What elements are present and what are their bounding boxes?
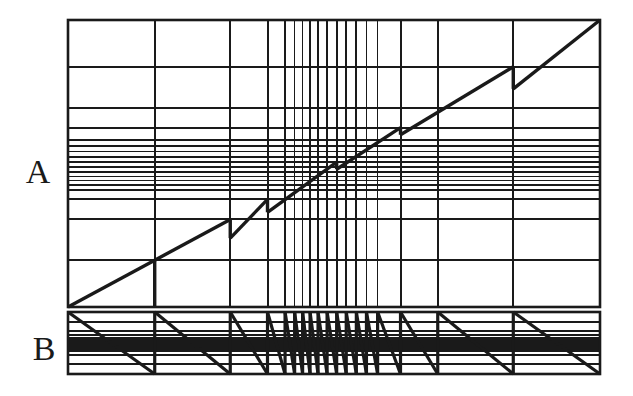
figure-root: A B <box>0 0 633 396</box>
panel-a-label: A <box>26 153 51 190</box>
panel-b-label: B <box>33 330 56 367</box>
panel-b: B <box>33 312 600 374</box>
figure-canvas: A B <box>0 0 633 396</box>
